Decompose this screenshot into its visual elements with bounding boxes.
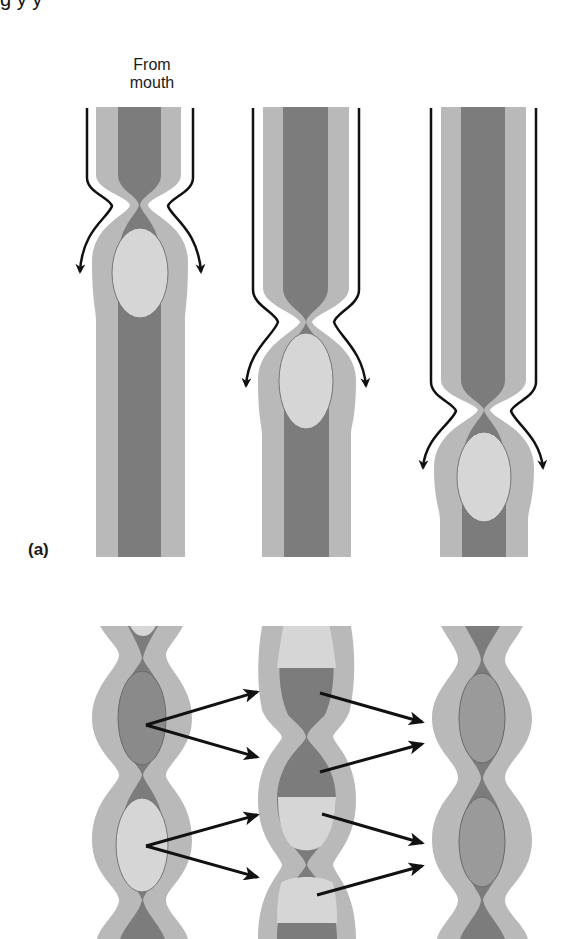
bolus: [279, 333, 333, 429]
bottom-light-half: [277, 877, 337, 923]
lumen: [118, 107, 161, 557]
segment-mixed-chyme-bottom: [459, 797, 505, 887]
segmentation-column-1: [92, 626, 192, 939]
peristalsis-tube-stage-1: [80, 107, 201, 557]
bolus: [457, 432, 511, 522]
peristalsis-tube-stage-3: [423, 107, 543, 557]
peristalsis-tube-stage-2: [246, 107, 366, 557]
segment-dark-chyme: [118, 671, 166, 765]
segmentation-column-2: [258, 626, 356, 939]
segment-light-chyme: [116, 798, 168, 892]
bolus: [112, 228, 168, 318]
peristalsis-segmentation-diagram: [0, 0, 579, 939]
segmentation-column-3: [432, 626, 532, 939]
top-light-half: [277, 626, 336, 668]
segment-mixed-chyme-top: [459, 673, 505, 763]
